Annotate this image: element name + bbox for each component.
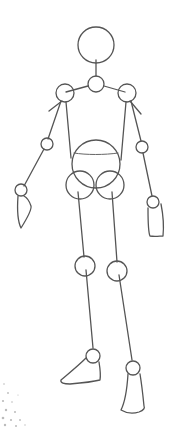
right-elbow-joint	[136, 141, 148, 153]
dot-texture	[2, 383, 26, 427]
left-foot	[61, 358, 101, 384]
right-foot	[121, 374, 144, 413]
left-hip-joint	[66, 171, 94, 199]
right-hip-joint	[96, 171, 124, 199]
left-elbow-joint	[41, 138, 53, 150]
shoulder-line-right	[104, 86, 125, 92]
right-knee-joint	[107, 261, 127, 281]
shoulder-line-left	[66, 86, 88, 92]
right-shin	[119, 275, 132, 360]
neck-joint	[88, 76, 104, 92]
right-forearm	[143, 153, 152, 196]
head-circle	[78, 27, 114, 63]
right-hand	[148, 204, 163, 236]
left-shoulder-joint	[56, 84, 74, 102]
right-shoulder-joint	[118, 84, 136, 102]
stick-figure-drawing	[0, 0, 179, 428]
left-thigh	[78, 192, 84, 257]
left-ankle-joint	[86, 349, 100, 363]
torso-left-line	[66, 102, 71, 158]
right-upper-arm	[131, 101, 141, 141]
right-ankle-joint	[126, 361, 140, 375]
right-wrist-joint	[147, 196, 159, 208]
waist-line	[74, 153, 118, 155]
torso-right-line	[121, 102, 126, 160]
left-hand	[18, 196, 31, 228]
left-forearm	[24, 149, 44, 186]
left-wrist-joint	[15, 184, 27, 196]
left-knee-joint	[75, 256, 95, 276]
left-shin	[86, 270, 93, 348]
right-thigh	[112, 192, 117, 262]
